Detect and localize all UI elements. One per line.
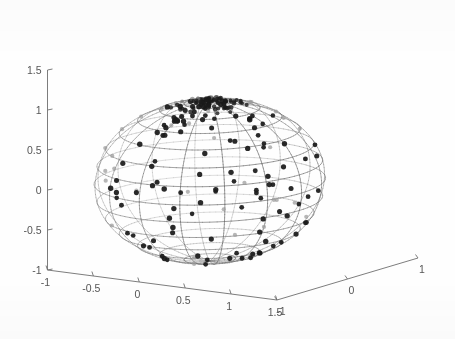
data-point xyxy=(178,190,183,195)
sphere-parallel-8 xyxy=(308,184,311,185)
data-point xyxy=(139,115,143,119)
sphere-parallel-10 xyxy=(282,217,285,218)
data-point xyxy=(247,116,252,121)
sphere-parallel-5 xyxy=(141,164,146,165)
data-point xyxy=(265,174,270,179)
sphere-parallel-9 xyxy=(284,228,289,229)
sphere-meridian-12 xyxy=(140,216,141,219)
sphere-parallel-5 xyxy=(237,166,244,167)
sphere-meridian-0 xyxy=(289,229,291,232)
sphere-meridian-1 xyxy=(316,160,317,163)
sphere-meridian-15 xyxy=(249,251,251,253)
sphere-parallel-6 xyxy=(314,151,317,152)
sphere-meridian-8 xyxy=(130,128,132,131)
data-point xyxy=(186,190,190,194)
sphere-meridian-7 xyxy=(157,197,158,200)
sphere-meridian-12 xyxy=(140,184,141,188)
sphere-parallel-9 xyxy=(116,207,119,208)
sphere-meridian-15 xyxy=(256,147,257,150)
sphere-meridian-7 xyxy=(160,204,161,207)
data-point xyxy=(191,99,195,103)
data-point xyxy=(175,103,179,107)
sphere-meridian-2 xyxy=(318,148,320,151)
data-point xyxy=(167,216,172,221)
sphere-meridian-5 xyxy=(224,238,225,241)
sphere-parallel-5 xyxy=(273,161,278,162)
sphere-meridian-8 xyxy=(121,190,122,193)
sphere-parallel-6 xyxy=(120,180,125,181)
z-tick-4 xyxy=(48,109,53,110)
sphere-parallel-6 xyxy=(295,145,300,146)
sphere-meridian-10 xyxy=(116,232,119,235)
sphere-meridian-4 xyxy=(266,116,268,118)
sphere-meridian-11 xyxy=(123,151,125,154)
sphere-parallel-9 xyxy=(141,200,146,201)
data-point xyxy=(279,240,284,245)
sphere-parallel-10 xyxy=(239,247,245,248)
sphere-parallel-11 xyxy=(267,233,270,234)
sphere-parallel-10 xyxy=(160,216,165,217)
sphere-parallel-10 xyxy=(260,214,265,215)
data-point xyxy=(282,116,286,120)
sphere-parallel-8 xyxy=(130,218,135,219)
sphere-parallel-9 xyxy=(303,204,306,205)
sphere-parallel-7 xyxy=(261,158,268,159)
sphere-parallel-8 xyxy=(106,191,109,192)
sphere-parallel-4 xyxy=(233,148,239,149)
sphere-meridian-10 xyxy=(106,221,108,224)
data-point xyxy=(233,113,238,118)
sphere-meridian-10 xyxy=(148,115,152,117)
sphere-parallel-7 xyxy=(286,196,292,197)
sphere-parallel-6 xyxy=(109,176,112,177)
sphere-meridian-4 xyxy=(268,118,270,120)
sphere-meridian-2 xyxy=(304,130,307,133)
sphere-meridian-5 xyxy=(233,111,234,113)
sphere-parallel-5 xyxy=(131,133,136,134)
sphere-parallel-9 xyxy=(268,196,274,197)
sphere-parallel-5 xyxy=(176,126,183,127)
sphere-meridian-4 xyxy=(277,181,278,185)
sphere-meridian-2 xyxy=(314,206,316,209)
data-point xyxy=(192,262,196,266)
sphere-meridian-13 xyxy=(187,145,188,148)
sphere-parallel-4 xyxy=(150,118,155,119)
sphere-meridian-15 xyxy=(239,121,241,124)
x-tick-label-3: 0.5 xyxy=(176,294,191,306)
sphere-meridian-9 xyxy=(167,254,172,255)
sphere-parallel-8 xyxy=(239,220,246,221)
sphere-meridian-9 xyxy=(103,202,105,205)
sphere-meridian-10 xyxy=(100,211,102,214)
sphere-parallel-5 xyxy=(293,156,297,157)
sphere-meridian-8 xyxy=(182,254,186,255)
sphere-parallel-6 xyxy=(174,141,181,142)
data-point xyxy=(262,225,266,229)
sphere-parallel-5 xyxy=(113,157,116,158)
sphere-parallel-8 xyxy=(130,183,135,184)
sphere-parallel-6 xyxy=(116,151,120,152)
sphere-meridian-9 xyxy=(172,255,177,256)
data-point xyxy=(257,229,262,234)
sphere-meridian-10 xyxy=(99,208,100,211)
sphere-parallel-7 xyxy=(128,200,134,201)
sphere-parallel-5 xyxy=(119,160,123,161)
data-point xyxy=(275,198,279,202)
sphere-meridian-2 xyxy=(319,151,320,154)
sphere-meridian-6 xyxy=(202,239,203,242)
sphere-parallel-5 xyxy=(262,163,268,164)
sphere-parallel-7 xyxy=(106,195,110,196)
sphere-parallel-5 xyxy=(279,128,284,129)
data-point xyxy=(228,138,233,143)
sphere-meridian-5 xyxy=(231,217,232,220)
x-tick-2 xyxy=(138,278,140,283)
sphere-meridian-3 xyxy=(292,123,294,126)
sphere-meridian-13 xyxy=(184,155,185,158)
sphere-meridian-15 xyxy=(257,240,258,242)
data-point xyxy=(217,97,221,101)
sphere-parallel-5 xyxy=(127,162,131,163)
sphere-meridian-12 xyxy=(149,239,151,242)
sphere-parallel-6 xyxy=(266,141,272,142)
sphere-meridian-11 xyxy=(113,171,114,175)
sphere-meridian-8 xyxy=(167,103,171,104)
sphere-parallel-7 xyxy=(268,159,274,160)
sphere-parallel-6 xyxy=(181,141,188,142)
